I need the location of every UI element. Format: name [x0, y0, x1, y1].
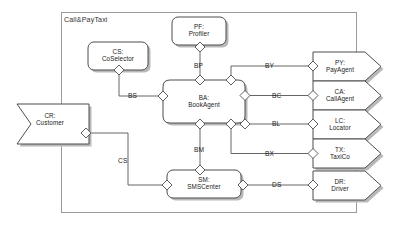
connector-label-BY: BY [265, 62, 274, 69]
diagram-svg [0, 0, 405, 229]
node-DR-driver[interactable] [313, 171, 384, 203]
connector-label-CS: CS [118, 157, 128, 164]
package-title: Call&PayTaxi [64, 16, 108, 24]
node-LC-locator[interactable] [313, 110, 384, 142]
package-title-text: Call&PayTaxi [64, 16, 108, 24]
connector-label-DS: DS [272, 181, 282, 188]
node-CA-callagent[interactable] [313, 81, 384, 113]
node-PY-payagent[interactable] [313, 52, 384, 84]
node-BA-bookagent[interactable] [163, 80, 248, 126]
connector-label-BM: BM [194, 146, 204, 153]
diagram-canvas: Call&PayTaxi CR: Customer CS: CoSelector… [0, 0, 405, 229]
node-CR-customer[interactable] [17, 104, 92, 147]
connector-line-BS [119, 72, 163, 96]
connector-label-BP: BP [194, 62, 203, 69]
connector-label-BL: BL [272, 120, 280, 127]
connector-label-BX: BX [265, 150, 274, 157]
connector-label-BS: BS [128, 92, 137, 99]
node-SM-smscenter[interactable] [167, 170, 244, 201]
connector-label-BC: BC [272, 92, 282, 99]
node-TX-taxico[interactable] [313, 139, 384, 171]
